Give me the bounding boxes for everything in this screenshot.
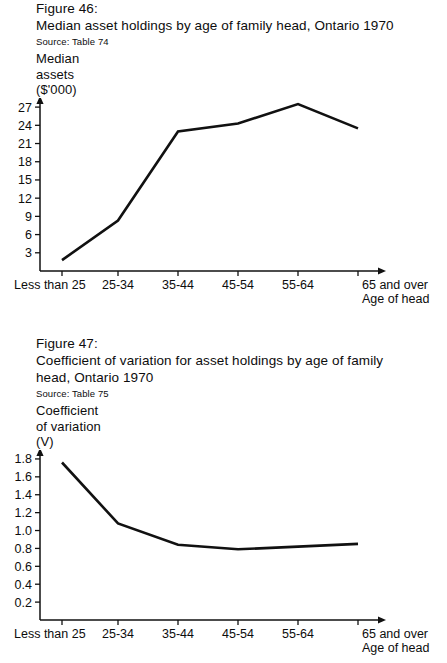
- figure-47-yaxis-caption: Coefficient of variation (V): [36, 403, 447, 450]
- figure-46-plot: 369121518212427 Less than 2525-3435-4445…: [0, 98, 447, 313]
- data-line: [62, 104, 358, 260]
- ytick-label: 0.6: [15, 559, 32, 573]
- ytick-label: 1.2: [15, 506, 32, 520]
- figure-46-source: Source: Table 74: [36, 35, 447, 48]
- figure-47-title-line2: head, Ontario 1970: [36, 369, 447, 386]
- ytick-label: 1.8: [15, 452, 32, 466]
- figure-46-yaxis-caption-line2: assets: [36, 67, 447, 83]
- xtick-label: 65 and over: [362, 627, 428, 641]
- figure-47-plot: 0.20.40.60.81.01.21.41.61.8 Less than 25…: [0, 450, 447, 660]
- xtick-label: 55-64: [282, 278, 314, 292]
- figure-47-title: Coefficient of variation for asset holdi…: [36, 352, 447, 386]
- xtick-label: Less than 25: [14, 627, 86, 641]
- figure-46-canvas: 369121518212427 Less than 2525-3435-4445…: [0, 98, 447, 313]
- ytick-label: 0.4: [15, 577, 32, 591]
- figure-46: Figure 46: Median asset holdings by age …: [0, 0, 447, 335]
- ytick-label: 15: [18, 173, 32, 187]
- ytick-label: 6: [25, 227, 32, 241]
- data-line: [62, 462, 358, 549]
- figure-46-xaxis: Less than 2525-3435-4445-5455-6465 and o…: [14, 267, 429, 306]
- figure-46-title-line1: Median asset holdings by age of family h…: [36, 17, 447, 34]
- xtick-label: 55-64: [282, 627, 314, 641]
- xtick-label: Less than 25: [14, 278, 86, 292]
- xtick-label: 25-34: [102, 278, 134, 292]
- ytick-label: 21: [18, 136, 32, 150]
- xtick-label: 45-54: [222, 278, 254, 292]
- figure-47-source: Source: Table 75: [36, 387, 447, 400]
- figure-47-header: Figure 47: Coefficient of variation for …: [0, 335, 447, 450]
- ytick-label: 0.8: [15, 541, 32, 555]
- ytick-label: 9: [25, 209, 32, 223]
- xtick-label: 65 and over: [362, 278, 428, 292]
- xaxis-title: Age of head: [362, 292, 429, 306]
- figure-47: Figure 47: Coefficient of variation for …: [0, 335, 447, 663]
- ytick-label: 24: [18, 118, 32, 132]
- figure-47-yaxis-caption-line3: (V): [36, 434, 447, 450]
- figure-46-yaxis-caption-line3: ($'000): [36, 82, 447, 98]
- ytick-label: 0.2: [15, 595, 32, 609]
- figure-47-title-line1: Coefficient of variation for asset holdi…: [36, 352, 447, 369]
- xtick-label: 25-34: [102, 627, 134, 641]
- ytick-label: 27: [18, 100, 32, 114]
- xtick-label: 35-44: [162, 278, 194, 292]
- ytick-label: 1.0: [15, 523, 32, 537]
- figure-47-series: [62, 462, 358, 549]
- figure-47-xaxis: Less than 2525-3435-4445-5455-6465 and o…: [14, 616, 429, 655]
- figure-47-canvas: 0.20.40.60.81.01.21.41.61.8 Less than 25…: [0, 450, 447, 660]
- figure-47-yaxis-caption-line1: Coefficient: [36, 403, 447, 419]
- xaxis-title: Age of head: [362, 641, 429, 655]
- xtick-label: 45-54: [222, 627, 254, 641]
- ytick-label: 3: [25, 246, 32, 260]
- figure-46-series: [62, 104, 358, 260]
- figure-46-header: Figure 46: Median asset holdings by age …: [0, 0, 447, 98]
- figure-46-yaxis-caption: Median assets ($'000): [36, 51, 447, 98]
- figure-46-number: Figure 46:: [36, 0, 447, 17]
- ytick-label: 18: [18, 155, 32, 169]
- figure-46-title: Median asset holdings by age of family h…: [36, 17, 447, 34]
- figure-46-yaxis-caption-line1: Median: [36, 51, 447, 67]
- xtick-label: 35-44: [162, 627, 194, 641]
- figure-46-yaxis: 369121518212427: [18, 98, 44, 271]
- figure-47-number: Figure 47:: [36, 335, 447, 352]
- ytick-label: 1.4: [15, 488, 32, 502]
- figure-47-yaxis-caption-line2: of variation: [36, 419, 447, 435]
- ytick-label: 1.6: [15, 470, 32, 484]
- figure-47-yaxis: 0.20.40.60.81.01.21.41.61.8: [15, 450, 44, 620]
- ytick-label: 12: [18, 191, 32, 205]
